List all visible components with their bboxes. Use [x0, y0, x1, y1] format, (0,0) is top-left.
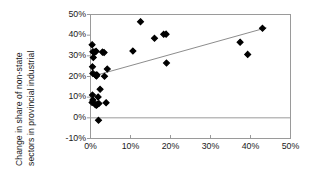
data-point — [90, 54, 96, 60]
trendline — [95, 28, 267, 76]
data-points — [89, 19, 265, 124]
data-point — [164, 60, 170, 66]
data-point — [245, 51, 251, 57]
plot-area — [0, 0, 314, 173]
data-point — [152, 35, 158, 41]
data-point — [103, 100, 109, 106]
data-point — [102, 73, 108, 79]
zero-baseline — [91, 15, 291, 139]
axis-tick-marks — [87, 15, 291, 139]
data-point — [130, 48, 136, 54]
data-point — [260, 25, 266, 31]
data-point — [97, 86, 103, 92]
data-point — [138, 19, 144, 25]
scatter-chart: Change in share of non-state sectors in … — [0, 0, 314, 173]
plot-frame — [91, 15, 291, 139]
data-point — [237, 39, 243, 45]
